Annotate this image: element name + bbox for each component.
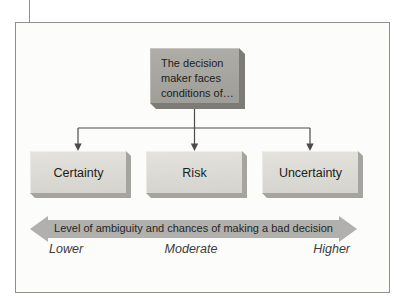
figure-frame: The decision maker faces conditions of… … xyxy=(15,22,390,293)
condition-box-face: Risk xyxy=(146,151,242,193)
down-arrowhead-icon xyxy=(74,144,81,152)
root-box-label: The decision maker faces conditions of… xyxy=(161,57,234,99)
condition-box-label: Risk xyxy=(182,166,206,180)
root-box-face: The decision maker faces conditions of… xyxy=(150,48,239,103)
condition-box-uncertainty: Uncertainty xyxy=(262,151,363,198)
down-arrowhead-icon xyxy=(191,144,198,152)
condition-box-label: Uncertainty xyxy=(279,166,342,180)
condition-box-certainty: Certainty xyxy=(30,151,131,198)
axis-arrow-label: Level of ambiguity and chances of making… xyxy=(30,216,357,242)
condition-box-face: Uncertainty xyxy=(262,151,358,193)
root-condition-box: The decision maker faces conditions of… xyxy=(150,48,245,109)
ambiguity-axis-arrow: Level of ambiguity and chances of making… xyxy=(30,216,357,242)
scanned-page: The decision maker faces conditions of… … xyxy=(0,0,405,301)
condition-box-face: Certainty xyxy=(30,151,126,193)
scale-label-moderate: Moderate xyxy=(165,242,218,256)
condition-box-risk: Risk xyxy=(146,151,247,198)
condition-box-label: Certainty xyxy=(53,166,103,180)
scale-label-higher: Higher xyxy=(313,242,350,256)
down-arrowhead-icon xyxy=(306,144,313,152)
scale-label-lower: Lower xyxy=(49,242,83,256)
page-column-rule xyxy=(29,0,30,23)
